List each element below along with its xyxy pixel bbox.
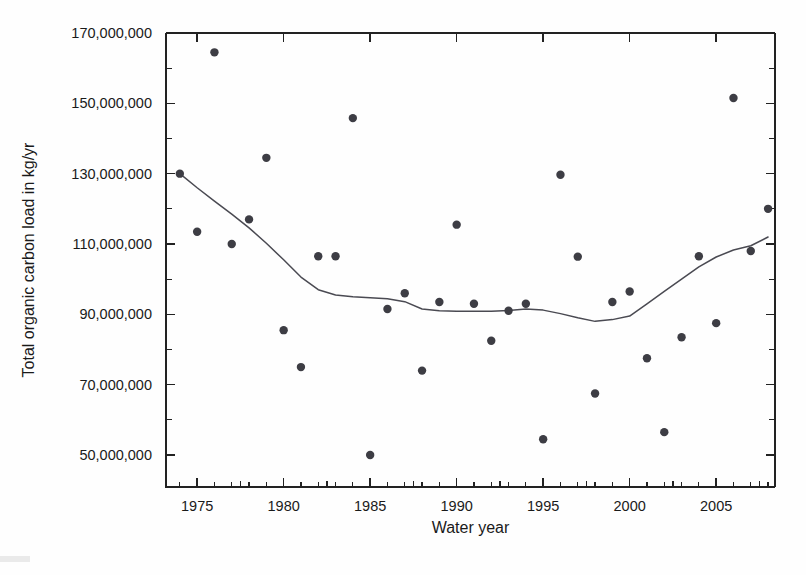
data-point [435,298,443,306]
data-point [210,48,218,56]
y-axis-title: Total organic carbon load in kg/yr [20,142,37,377]
scan-artifact [0,556,30,562]
data-point [349,114,357,122]
axis-spines [166,33,775,487]
data-point [608,298,616,306]
x-tick-label: 1990 [441,498,473,514]
data-point [297,363,305,371]
data-point [747,247,755,255]
y-tick-label: 50,000,000 [79,447,152,463]
data-point [539,435,547,443]
data-point [764,205,772,213]
x-tick-label: 1980 [268,498,300,514]
y-tick-label: 170,000,000 [71,25,152,41]
data-point [574,252,582,260]
data-point [245,215,253,223]
data-point [729,94,737,102]
data-point [418,366,426,374]
y-tick-label: 90,000,000 [79,306,152,322]
x-tick-label: 2000 [614,498,646,514]
data-point [331,252,339,260]
data-point [625,287,633,295]
x-tick-label: 1995 [527,498,559,514]
data-point [470,300,478,308]
data-point [452,220,460,228]
trend-line [180,174,768,322]
data-point [262,154,270,162]
data-point [228,240,236,248]
data-point [677,333,685,341]
chart-render-layer: 50,000,00070,000,00090,000,000110,000,00… [0,25,775,562]
data-point [712,319,720,327]
data-point [279,326,287,334]
data-point [695,252,703,260]
data-point [660,428,668,436]
data-point [383,305,391,313]
data-point [522,300,530,308]
x-tick-label: 1975 [181,498,213,514]
x-axis-title: Water year [432,519,510,536]
data-point [366,451,374,459]
data-point [643,354,651,362]
chart-figure: 50,000,00070,000,00090,000,000110,000,00… [0,0,806,575]
x-tick-label: 1985 [354,498,386,514]
data-point [556,171,564,179]
data-point [591,389,599,397]
x-tick-label: 2005 [700,498,732,514]
data-point [401,289,409,297]
y-tick-label: 70,000,000 [79,377,152,393]
data-point [314,252,322,260]
y-tick-label: 150,000,000 [71,95,152,111]
y-tick-label: 110,000,000 [72,236,152,252]
data-point [504,307,512,315]
data-point [176,169,184,177]
data-point [193,227,201,235]
scatter-plot-svg: 50,000,00070,000,00090,000,000110,000,00… [0,0,806,575]
y-tick-label: 130,000,000 [71,166,152,182]
data-point [487,337,495,345]
